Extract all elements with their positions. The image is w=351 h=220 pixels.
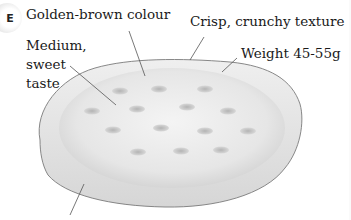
label-weight: Weight 45-55g	[241, 44, 341, 63]
label-taste-line1: Medium,	[26, 36, 87, 55]
label-taste-line3: taste	[26, 74, 60, 93]
label-texture: Crisp, crunchy texture	[190, 12, 344, 31]
label-colour: Golden-brown colour	[26, 5, 170, 24]
biscuit-illustration	[0, 0, 351, 220]
label-taste-line2: sweet	[26, 55, 66, 74]
